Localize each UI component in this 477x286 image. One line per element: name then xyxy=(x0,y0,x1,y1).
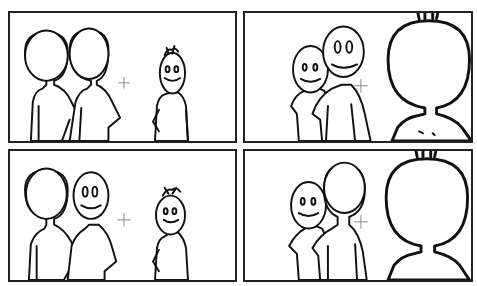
comic-panel-2 xyxy=(243,11,473,143)
figure-spiky-smiling xyxy=(153,188,188,280)
comic-panel-3 xyxy=(8,149,237,282)
figure-spiky-back-large xyxy=(388,13,471,141)
panel-4-drawing xyxy=(245,151,471,280)
panel-1-drawing xyxy=(10,13,235,141)
figure-back-left xyxy=(25,168,75,280)
comic-panel-1 xyxy=(8,11,237,143)
panel-3-drawing xyxy=(10,151,235,280)
figure-back-right xyxy=(70,29,120,141)
figure-spiky-smiling xyxy=(153,46,188,141)
comic-panel-4 xyxy=(243,149,473,282)
panel-2-drawing xyxy=(245,13,471,141)
figure-spiky-back-large xyxy=(386,151,469,280)
figure-smiling xyxy=(68,172,116,280)
